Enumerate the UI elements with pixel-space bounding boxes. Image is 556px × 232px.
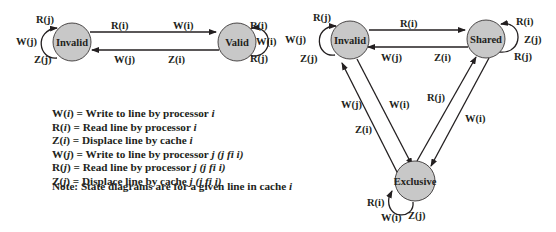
- label: W(i): [256, 36, 277, 48]
- label: W(j): [114, 54, 135, 66]
- edge-exclusive-to-shared: [417, 57, 476, 161]
- label: R(i): [400, 18, 418, 30]
- legend-item: W(j) = Write to line by processor j (j f…: [52, 148, 243, 162]
- node-exclusive: Exclusive: [394, 161, 437, 201]
- edge-invalid-to-exclusive: [357, 59, 412, 165]
- label: R(j): [36, 14, 55, 26]
- node-label: Invalid: [334, 35, 366, 46]
- edge-exclusive-to-invalid: [342, 63, 398, 174]
- node-invalid-left: Invalid: [53, 23, 91, 61]
- label: R(i): [111, 20, 129, 32]
- label: R(i): [250, 20, 268, 32]
- label: W(i): [389, 99, 410, 111]
- legend-item: R(j) = Read line by processor j (j fi i): [52, 161, 243, 175]
- node-invalid-right: Invalid: [331, 21, 369, 59]
- label: Z(i): [168, 54, 185, 66]
- label: R(j): [427, 92, 446, 104]
- note: Note: State diagrams are for a given lin…: [52, 180, 292, 192]
- node-shared: Shared: [467, 20, 505, 58]
- label: W(j): [381, 52, 402, 64]
- node-label: Valid: [225, 37, 249, 48]
- label: R(j): [514, 51, 533, 63]
- label: W(j): [341, 99, 362, 111]
- node-label: Shared: [470, 34, 502, 45]
- legend-item: Z(i) = Displace line by cache i: [52, 134, 243, 148]
- label: Z(i): [434, 52, 451, 64]
- label: W(i): [173, 20, 194, 32]
- legend-item: R(i) = Read line by processor i: [52, 121, 243, 135]
- node-label: Invalid: [56, 37, 88, 48]
- label: R(j): [250, 53, 269, 65]
- edge-shared-to-exclusive: [431, 58, 489, 166]
- node-label: Exclusive: [394, 176, 437, 187]
- label: Z(j): [408, 210, 426, 222]
- label: Z(j): [524, 34, 542, 46]
- label: R(i): [367, 197, 385, 209]
- label: W(i): [381, 212, 402, 224]
- label: W(j): [16, 36, 37, 48]
- label: R(i): [516, 16, 534, 28]
- right-diagram: Invalid Shared Exclusive R(j) W(j) Z(j) …: [285, 12, 542, 224]
- left-diagram: Invalid Valid R(j) W(j) Z(j) R(i) W(i) W…: [16, 14, 277, 66]
- legend-item: W(i) = Write to line by processor i: [52, 107, 243, 121]
- label: Z(j): [34, 54, 52, 66]
- label: W(j): [285, 34, 306, 46]
- label: R(j): [313, 12, 332, 24]
- label: Z(j): [300, 53, 318, 65]
- label: W(i): [465, 113, 486, 125]
- label: Z(i): [355, 124, 372, 136]
- legend: W(i) = Write to line by processor i R(i)…: [52, 107, 243, 189]
